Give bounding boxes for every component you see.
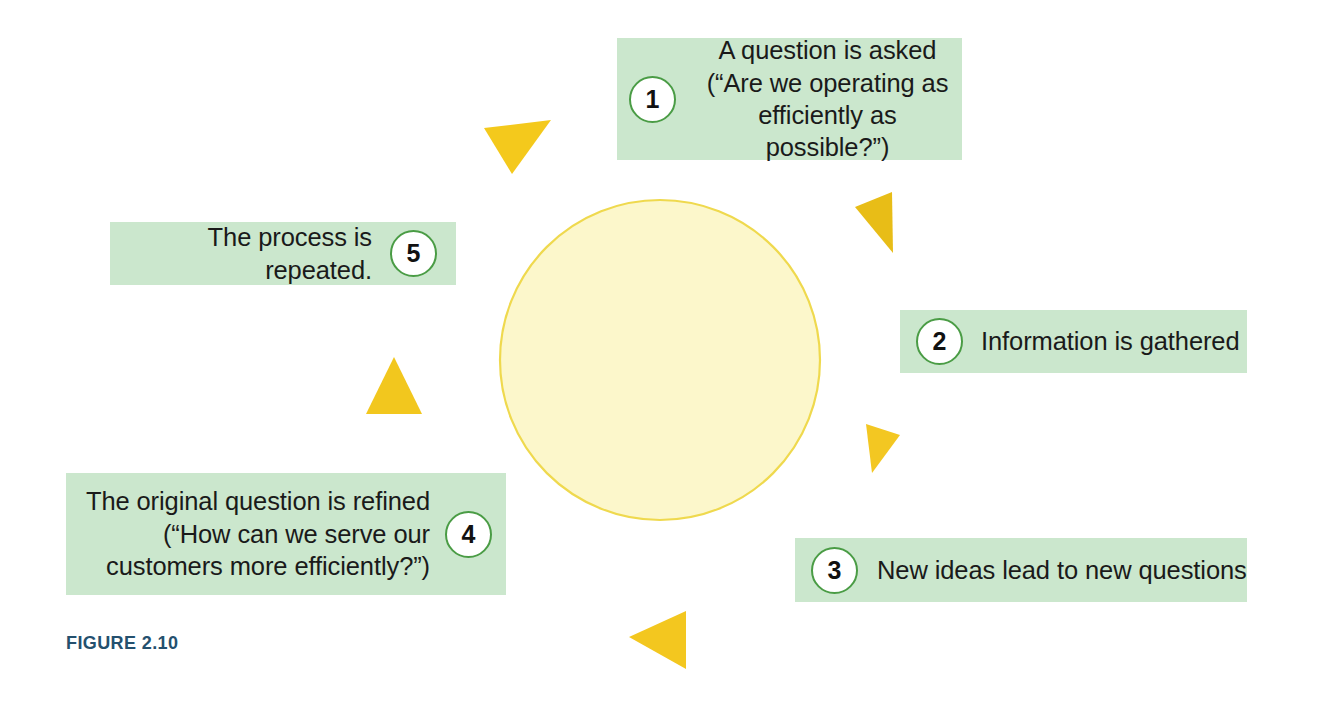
- step-box-1[interactable]: 1 A question is asked (“Are we operating…: [617, 38, 962, 160]
- step-box-2[interactable]: 2 Information is gathered: [900, 310, 1247, 373]
- figure-caption: FIGURE 2.10: [66, 633, 178, 654]
- step-number-1: 1: [629, 76, 676, 123]
- arrowhead-left-icon: [366, 357, 422, 414]
- step-box-3[interactable]: 3 New ideas lead to new questions: [795, 538, 1247, 602]
- step-number-5: 5: [390, 230, 437, 277]
- step-number-2: 2: [916, 318, 963, 365]
- step-box-4[interactable]: The original question is refined (“How c…: [66, 473, 506, 595]
- step-text-5: The process is repeated.: [110, 221, 372, 286]
- arrowhead-right-upper-icon: [855, 192, 893, 253]
- step-number-3: 3: [811, 547, 858, 594]
- step-number-4: 4: [445, 511, 492, 558]
- arrowhead-bottom-icon: [629, 611, 686, 669]
- arrowhead-right-lower-icon: [866, 424, 900, 473]
- step-text-4: The original question is refined (“How c…: [86, 485, 430, 582]
- step-text-3: New ideas lead to new questions: [877, 554, 1247, 586]
- cycle-circle: [500, 200, 820, 520]
- step-text-1: A question is asked (“Are we operating a…: [693, 34, 962, 164]
- step-box-5[interactable]: The process is repeated. 5: [110, 222, 456, 285]
- step-text-2: Information is gathered: [981, 325, 1240, 357]
- arrowhead-top-icon: [484, 120, 551, 174]
- figure-canvas: 1 A question is asked (“Are we operating…: [0, 0, 1319, 710]
